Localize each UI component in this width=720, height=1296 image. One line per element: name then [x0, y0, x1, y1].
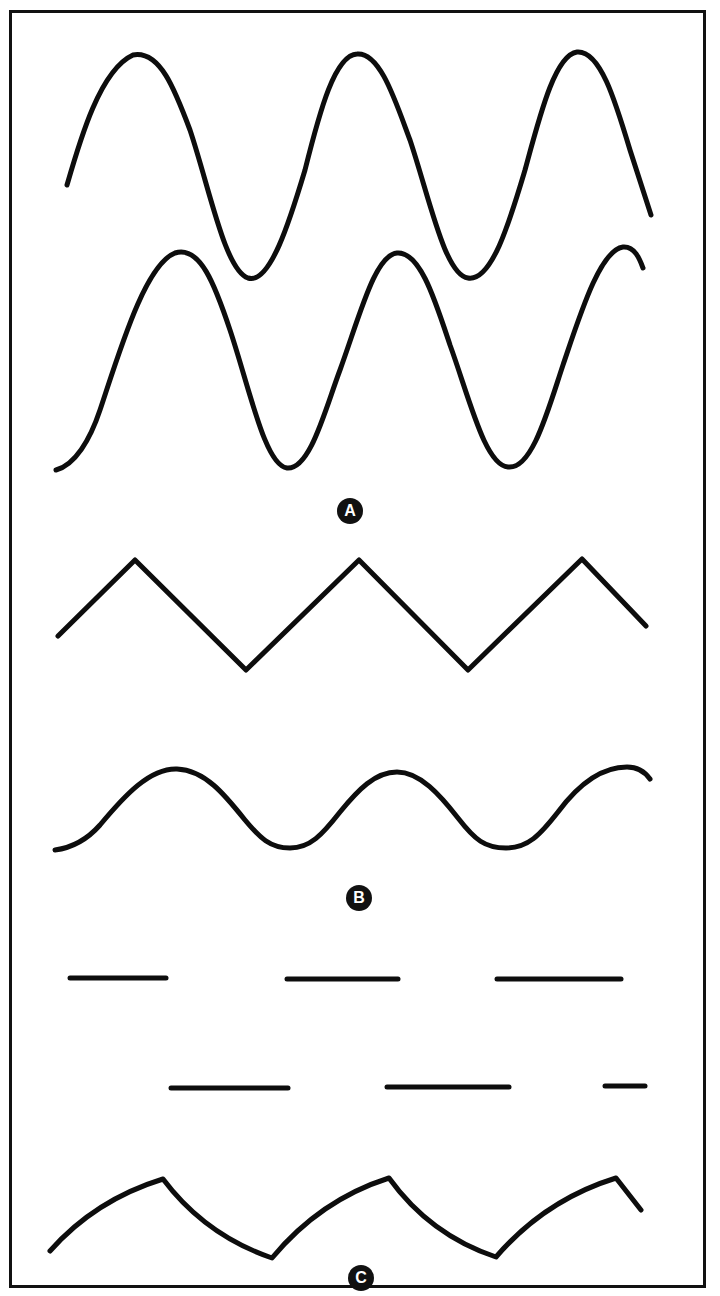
panel-label-c: C: [348, 1265, 374, 1291]
panel-label-b: B: [346, 885, 372, 911]
triangle-wave: [58, 559, 646, 670]
scalloped-wave: [50, 1178, 641, 1258]
pulse-row-top: [70, 978, 621, 979]
low-amplitude-sine-wave: [55, 767, 650, 850]
sine-wave-top: [67, 52, 651, 279]
panel-label-a: A: [337, 498, 363, 524]
sine-wave-bottom: [56, 247, 643, 470]
pulse-row-bottom: [171, 1086, 645, 1088]
waveform-diagram: [0, 0, 720, 1296]
